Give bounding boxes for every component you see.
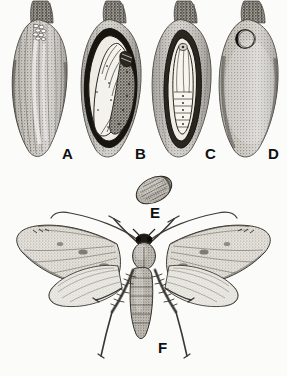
figure-label-b: B — [135, 146, 146, 161]
moth-thorax — [133, 243, 156, 270]
figure-label-e: E — [150, 205, 160, 220]
figure-label-f: F — [158, 340, 167, 355]
pupa-in-cell — [173, 44, 193, 134]
figure-label-c: C — [205, 146, 216, 161]
plate-artwork — [0, 0, 287, 376]
figure-label-d: D — [268, 146, 279, 161]
figure-label-a: A — [62, 146, 73, 161]
illustration-plate: A B C D E F — [0, 0, 287, 376]
